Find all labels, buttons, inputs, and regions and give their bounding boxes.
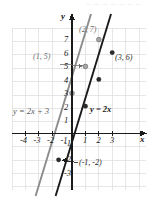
point-label-2-7: (2, 7): [79, 25, 96, 34]
y-tick-label-2: 2: [64, 102, 68, 112]
x-tick-label-2: 2: [97, 135, 101, 145]
y-axis-label: y: [61, 11, 65, 21]
point-label-1-5: (1, 5): [33, 52, 50, 61]
axis-lines: [12, 18, 140, 190]
y-tick-label--2: -2: [64, 154, 71, 164]
y-tick-label--1: -1: [64, 138, 71, 148]
equation-label-y-2x: y = 2x: [90, 104, 111, 114]
x-tick-label-3: 3: [110, 135, 114, 145]
x-tick-label--4: -4: [20, 135, 27, 145]
y-tick-label-6: 6: [64, 48, 68, 58]
x-axis-label: x: [140, 134, 145, 144]
y-tick-label--3: -3: [64, 168, 71, 178]
x-tick-label--3: -3: [34, 135, 41, 145]
point-label--1--2: (-1, -2): [79, 158, 102, 167]
equation-label-y-2x-plus-3: y = 2x + 3: [13, 106, 49, 116]
figure-canvas: — — — — — — —: [0, 0, 149, 199]
x-tick-label--2: -2: [47, 135, 54, 145]
y-tick-label-1: 1: [64, 115, 68, 125]
y-axis-arrow: [69, 13, 75, 20]
leader-arrow-pt-1-5: [79, 64, 84, 69]
y-tick-label-3: 3: [64, 88, 68, 98]
coordinate-plane-graphic: [0, 0, 149, 199]
point-label-3-6: (3, 6): [115, 53, 132, 62]
y-tick-label-5: 5: [64, 61, 68, 71]
y-tick-label-4: 4: [64, 75, 68, 85]
x-tick-label-1: 1: [83, 135, 87, 145]
y-tick-label-7: 7: [64, 34, 68, 44]
